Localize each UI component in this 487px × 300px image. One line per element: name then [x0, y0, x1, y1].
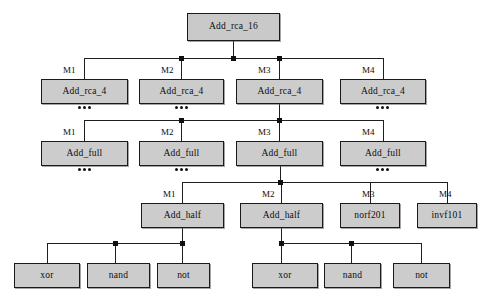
instance-label-level-3-half-m3: M3: [362, 190, 375, 199]
junction-not-l: [180, 241, 185, 246]
module-box-nand-4[interactable]: nand: [324, 263, 381, 288]
module-box-nand-1[interactable]: nand: [87, 263, 150, 288]
junction-full-m3: [277, 118, 282, 123]
instance-label-level-1-rca4-m1: M1: [63, 66, 76, 75]
drop-half-m1: [182, 182, 183, 203]
junction-half-m2: [278, 180, 283, 185]
instance-label-level-3-half-m2: M2: [262, 190, 275, 199]
junction-root: [231, 56, 236, 61]
repeat-ellipsis-level-2-full-3: [376, 168, 389, 171]
drop-rca4-m4: [383, 58, 384, 79]
module-box-add-rca-4-m1[interactable]: Add_rca_4: [41, 79, 128, 104]
module-box-not-5[interactable]: not: [393, 263, 450, 288]
instance-label-level-3-half-m1: M1: [163, 190, 176, 199]
drop-rca4-m1: [84, 58, 85, 79]
repeat-ellipsis-level-2-full-1: [175, 168, 188, 171]
module-box-add-half-m2[interactable]: Add_half: [240, 203, 323, 228]
module-box-add-rca-4-m3[interactable]: Add_rca_4: [236, 79, 323, 104]
instance-label-level-2-full-m2: M2: [161, 128, 174, 137]
drop-gate-not-l: [182, 243, 183, 263]
module-box-add-half-m1[interactable]: Add_half: [141, 203, 224, 228]
module-box-add-full-m2[interactable]: Add_full: [139, 141, 224, 166]
instance-label-level-2-full-m1: M1: [63, 128, 76, 137]
module-box-add-full-m4[interactable]: Add_full: [340, 141, 426, 166]
junction-nand-l: [113, 241, 118, 246]
module-box-add-full-m1[interactable]: Add_full: [41, 141, 128, 166]
instance-label-level-1-rca4-m3: M3: [258, 66, 271, 75]
junction-full-m2: [179, 118, 184, 123]
drop-full-m3: [279, 120, 280, 141]
drop-rca4-m3: [279, 58, 280, 79]
bus-full-to-half: [182, 182, 447, 183]
instance-label-level-3-half-m4: M4: [439, 190, 452, 199]
repeat-ellipsis-level-1-rca4-1: [175, 106, 188, 109]
instance-label-level-2-full-m4: M4: [362, 128, 375, 137]
drop-rca4-m2: [181, 58, 182, 79]
drop-gate-nand-r: [351, 243, 352, 263]
repeat-ellipsis-level-1-rca4-0: [78, 106, 91, 109]
instance-label-level-1-rca4-m4: M4: [362, 66, 375, 75]
drop-half-m2: [281, 182, 282, 203]
bus-rca4-to-full: [84, 120, 383, 121]
drop-full-m2: [181, 120, 182, 141]
module-box-xor-3[interactable]: xor: [252, 263, 318, 288]
module-box-not-2[interactable]: not: [157, 263, 210, 288]
module-box-norf201-m3[interactable]: norf201: [340, 203, 400, 228]
repeat-ellipsis-level-2-full-0: [78, 168, 91, 171]
junction-xor-r: [279, 241, 284, 246]
drop-full-m1: [84, 120, 85, 141]
instance-label-level-2-full-m3: M3: [258, 128, 271, 137]
module-box-xor-0[interactable]: xor: [14, 263, 80, 288]
module-box-add-rca-4-m2[interactable]: Add_rca_4: [139, 79, 224, 104]
drop-gate-xor-r: [281, 243, 282, 263]
instance-label-level-1-rca4-m2: M2: [161, 66, 174, 75]
junction-rca4-m3: [277, 56, 282, 61]
drop-gate-nand-l: [115, 243, 116, 263]
module-box-add-rca-16-0[interactable]: Add_rca_16: [187, 13, 280, 41]
drop-gate-not-r: [421, 243, 422, 263]
module-box-add-rca-4-m4[interactable]: Add_rca_4: [340, 79, 426, 104]
junction-nand-r: [349, 241, 354, 246]
repeat-ellipsis-level-1-rca4-3: [376, 106, 389, 109]
junction-rca4-m2: [179, 56, 184, 61]
drop-full-m4: [383, 120, 384, 141]
module-box-invf101-m4[interactable]: invf101: [417, 203, 477, 228]
drop-gate-xor-l: [47, 243, 48, 263]
module-hierarchy-diagram: Add_rca_16Add_rca_4M1Add_rca_4M2Add_rca_…: [0, 0, 487, 300]
module-box-add-full-m3[interactable]: Add_full: [236, 141, 323, 166]
